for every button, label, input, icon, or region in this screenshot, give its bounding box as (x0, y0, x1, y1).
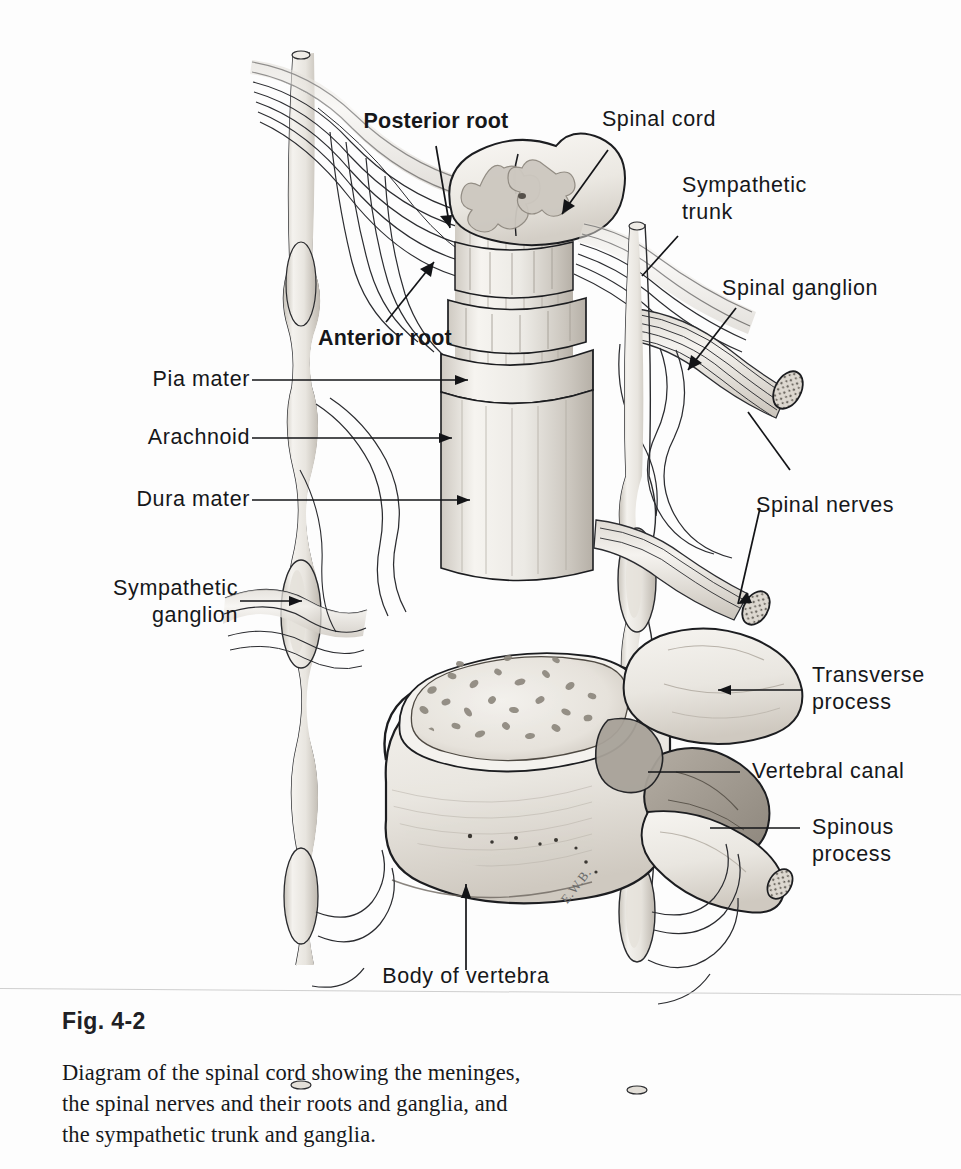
label-spinal-nerves: Spinal nerves (756, 492, 894, 519)
label-arachnoid: Arachnoid (50, 424, 250, 451)
label-sympathetic-trunk-line1: Sympathetic (682, 172, 807, 199)
leader-spinal-nerves-upper (748, 412, 790, 470)
pia-mater-sleeve (455, 242, 573, 298)
label-posterior-root: Posterior root (336, 108, 536, 135)
leader-spinal-nerves-lower (738, 508, 760, 604)
label-body-of-vertebra: Body of vertebra (366, 963, 566, 990)
figure-caption-block: Fig. 4-2 Diagram of the spinal cord show… (62, 1008, 662, 1150)
label-spinal-cord: Spinal cord (566, 106, 752, 133)
label-vertebral-canal: Vertebral canal (752, 758, 904, 785)
label-spinal-ganglion: Spinal ganglion (722, 275, 878, 302)
label-sympathetic-trunk-line2: trunk (682, 199, 733, 226)
label-dura-mater: Dura mater (50, 486, 250, 513)
spinal-ganglion-upper (628, 308, 809, 418)
dura-mater-sac (441, 390, 593, 581)
label-pia-mater: Pia mater (50, 366, 250, 393)
label-sympathetic-ganglion-line1: Sympathetic (30, 575, 238, 602)
left-sympathetic-trunk (281, 51, 321, 1089)
figure-caption-text: Diagram of the spinal cord showing the m… (62, 1057, 662, 1150)
label-spinous-process-line2: process (812, 841, 891, 868)
label-transverse-process-line1: Transverse (812, 662, 925, 689)
figure-plate: Posterior root Spinal cord Sympathetic t… (0, 0, 961, 1169)
label-spinous-process-line1: Spinous (812, 814, 894, 841)
spinal-cord-structure (441, 134, 625, 581)
label-sympathetic-ganglion-line2: ganglion (30, 602, 238, 629)
figure-number: Fig. 4-2 (62, 1008, 662, 1035)
label-transverse-process-line2: process (812, 689, 891, 716)
transverse-process (624, 628, 803, 744)
label-anterior-root: Anterior root (318, 325, 452, 352)
